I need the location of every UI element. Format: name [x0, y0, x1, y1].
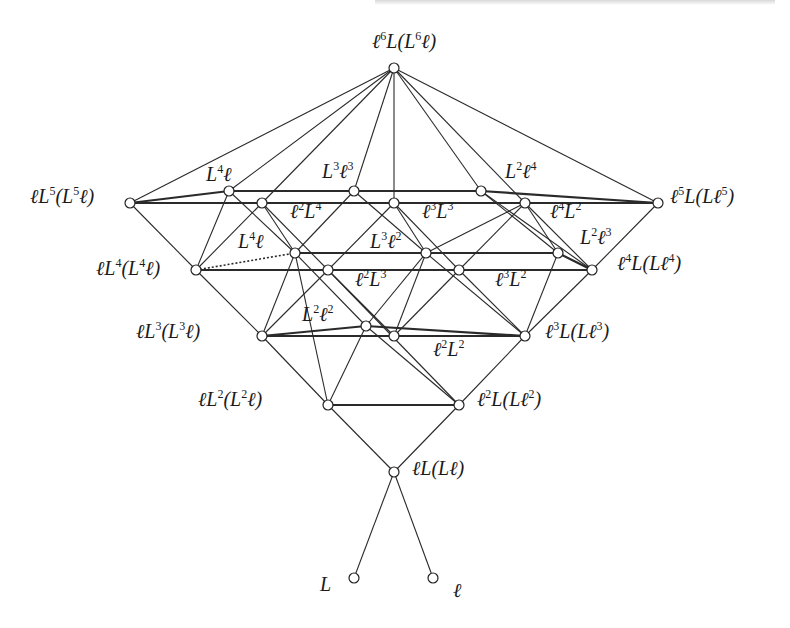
node-label-top: ℓ6L(L6ℓ) [372, 30, 436, 51]
node-L4l_top [224, 186, 234, 196]
node-label-L4l_mid: L4ℓ [238, 230, 263, 251]
node-L2l2 [361, 321, 371, 331]
node-label-L3l2: L3ℓ2 [370, 230, 401, 251]
node-label-lL2: ℓL2(L2ℓ) [198, 388, 262, 409]
edge-lL2-L2l2 [328, 326, 366, 405]
edge-lL3-L2l2 [262, 326, 366, 336]
node-l4L2 [520, 198, 530, 208]
node-label-L2l4: L2ℓ4 [505, 160, 536, 181]
node-label-l3L3: ℓ3L3 [422, 200, 453, 221]
edge-lL3-lL4 [196, 270, 262, 336]
node-l4L [587, 265, 597, 275]
node-l2L3 [323, 265, 333, 275]
node-label-L2l2: L2ℓ2 [302, 303, 333, 324]
lattice-diagram [0, 0, 790, 628]
node-label-l: ℓ [453, 580, 461, 600]
edge-l-lL [394, 472, 433, 578]
edge-lL-lL2 [328, 405, 394, 472]
edge-top-l5L [394, 68, 658, 203]
node-label-L3l3: L3ℓ3 [322, 160, 353, 181]
edge-top-L4l_top [229, 68, 394, 191]
node-label-L2l3: L2ℓ3 [580, 226, 611, 247]
node-L3l3 [349, 186, 359, 196]
node-l2L2 [389, 331, 399, 341]
node-label-l3L: ℓ3L(Lℓ3) [545, 320, 609, 341]
edge-top-L2l4 [394, 68, 481, 191]
node-L2l4 [476, 186, 486, 196]
node-label-l2L2: ℓ2L2 [433, 338, 464, 359]
node-label-lL5: ℓL5(L5ℓ) [30, 185, 94, 206]
node-lL [389, 467, 399, 477]
edge-top-l2L4 [262, 68, 394, 203]
edge-lL2-L4l_mid [295, 253, 328, 405]
node-L2l3 [553, 248, 563, 258]
node-top [389, 63, 399, 73]
edge-top-l4L2 [394, 68, 525, 203]
node-l3L3 [389, 198, 399, 208]
node-label-lL: ℓL(Lℓ) [412, 458, 464, 478]
node-l3L [520, 331, 530, 341]
edge-top-L3l3 [354, 68, 394, 191]
node-lL4 [191, 265, 201, 275]
edge-L2l3-l4L [558, 253, 592, 270]
node-label-l4L: ℓ4L(Lℓ4) [617, 252, 681, 273]
edge-lL5-L4l_top [130, 191, 229, 203]
node-lL2 [323, 400, 333, 410]
node-lL3 [257, 331, 267, 341]
node-label-l2L: ℓ2L(Lℓ2) [477, 388, 541, 409]
node-L3l2 [421, 248, 431, 258]
node-lL5 [125, 198, 135, 208]
node-L [349, 573, 359, 583]
node-l2L4 [257, 198, 267, 208]
node-label-L4l_top: L4ℓ [206, 163, 231, 184]
edge-lL3-L4l_mid [262, 253, 295, 336]
node-label-l3L2: ℓ3L2 [495, 268, 526, 289]
node-label-l2L4: ℓ2L4 [290, 200, 321, 221]
edge-l3L-L3l2 [426, 253, 525, 336]
node-l2L [454, 400, 464, 410]
edge-l2L2-L3l2 [394, 253, 426, 336]
node-l3L2 [454, 265, 464, 275]
node-label-l5L: ℓ5L(Lℓ5) [670, 185, 734, 206]
node-label-l4L2: ℓ4L2 [550, 200, 581, 221]
edge-top-lL5 [130, 68, 394, 203]
node-label-L: L [320, 574, 331, 594]
node-label-l2L3: ℓ2L3 [355, 268, 386, 289]
edge-L-lL [354, 472, 394, 578]
edge-L2l3-L2l4 [481, 191, 558, 253]
node-L4l_mid [290, 248, 300, 258]
node-l5L [653, 198, 663, 208]
edge-lL2-lL3 [262, 336, 328, 405]
node-label-lL3: ℓL3(L3ℓ) [136, 320, 200, 341]
node-l [428, 573, 438, 583]
edge-l3L2-l4L2 [459, 203, 525, 270]
node-label-lL4: ℓL4(L4ℓ) [96, 257, 160, 278]
